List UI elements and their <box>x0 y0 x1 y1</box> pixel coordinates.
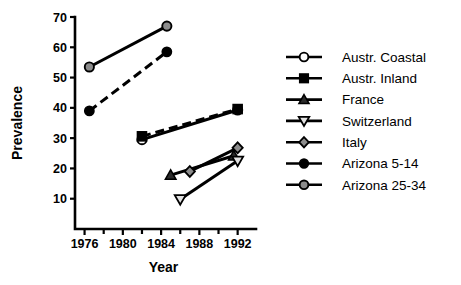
legend-item-label: France <box>342 92 384 107</box>
data-point-marker <box>85 62 94 71</box>
x-axis-tick-label: 1992 <box>224 237 252 251</box>
legend-item-france[interactable]: France <box>286 92 384 107</box>
cut-off-caption <box>0 276 461 285</box>
y-axis-tick-label: 70 <box>53 11 67 25</box>
data-point-marker <box>85 106 94 115</box>
legend-item-arizona-5-14[interactable]: Arizona 5-14 <box>286 156 419 171</box>
chart-svg: 1020304050607019761980198419881992Preval… <box>0 0 461 285</box>
y-axis-title: Prevalence <box>9 86 25 160</box>
prevalence-by-year-chart: 1020304050607019761980198419881992Preval… <box>0 0 461 285</box>
y-axis-tick-label: 20 <box>53 162 67 176</box>
series-arizona-5-14 <box>85 47 172 115</box>
legend-item-label: Austr. Inland <box>342 71 417 86</box>
y-axis-tick-label: 30 <box>53 132 67 146</box>
legend-item-label: Arizona 25-34 <box>342 178 427 193</box>
y-axis-tick-label: 10 <box>53 192 67 206</box>
y-axis-tick-label: 50 <box>53 71 67 85</box>
data-point-marker <box>162 47 171 56</box>
legend-item-switzerland[interactable]: Switzerland <box>286 114 412 129</box>
x-axis-title: Year <box>149 259 179 275</box>
series-line <box>89 26 167 67</box>
y-axis-tick-label: 40 <box>53 101 67 115</box>
x-axis-tick-label: 1980 <box>109 237 137 251</box>
legend-item-label: Switzerland <box>342 114 412 129</box>
legend: Austr. CoastalAustr. InlandFranceSwitzer… <box>286 50 427 193</box>
legend-item-label: Austr. Coastal <box>342 50 426 65</box>
x-axis-tick-label: 1988 <box>185 237 213 251</box>
x-axis-tick-label: 1984 <box>147 237 175 251</box>
series-line <box>142 109 238 136</box>
legend-item-label: Italy <box>342 135 367 150</box>
data-point-marker <box>299 137 309 147</box>
legend-item-austr-coastal[interactable]: Austr. Coastal <box>286 50 426 65</box>
data-point-marker <box>300 180 309 189</box>
data-point-marker <box>233 104 242 113</box>
legend-item-italy[interactable]: Italy <box>286 135 367 150</box>
legend-item-arizona-25-34[interactable]: Arizona 25-34 <box>286 178 427 193</box>
legend-item-label: Arizona 5-14 <box>342 156 419 171</box>
data-point-marker <box>300 159 309 168</box>
x-axis-tick-label: 1976 <box>71 237 99 251</box>
data-point-marker <box>300 74 309 83</box>
data-point-marker <box>137 132 146 141</box>
series-arizona-25-34 <box>85 21 172 71</box>
y-axis-tick-label: 60 <box>53 41 67 55</box>
legend-item-austr-inland[interactable]: Austr. Inland <box>286 71 417 86</box>
data-point-marker <box>162 21 171 30</box>
data-point-marker <box>300 53 309 62</box>
data-point-marker <box>175 195 186 205</box>
